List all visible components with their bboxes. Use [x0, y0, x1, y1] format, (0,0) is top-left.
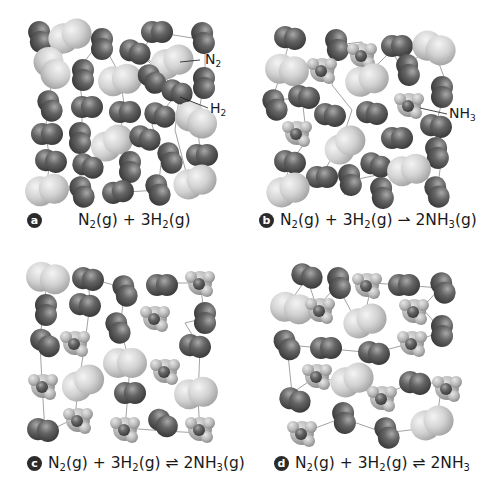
nh3-molecule	[307, 58, 337, 84]
h2-molecule	[144, 404, 183, 441]
h2-molecule	[142, 171, 174, 209]
h2-molecule	[381, 35, 413, 57]
n2-molecule	[406, 401, 458, 444]
h2-molecule	[71, 96, 103, 118]
badge-c: c	[27, 456, 42, 471]
n2-molecule	[24, 259, 73, 296]
badge-d: d	[274, 456, 289, 471]
h2-molecule	[109, 101, 141, 123]
h2-molecule	[427, 269, 459, 307]
n2-molecule	[56, 359, 109, 407]
nh3-molecule	[432, 376, 462, 402]
badge-a: a	[27, 213, 42, 228]
h2-molecule	[194, 302, 216, 334]
h2-molecule	[34, 87, 66, 125]
h2-molecule	[306, 166, 338, 188]
h2-molecule	[381, 127, 413, 149]
h2-label: H2	[210, 100, 226, 118]
h2-molecule	[26, 324, 65, 361]
h2-molecule	[431, 315, 453, 347]
n2-molecule	[96, 61, 145, 98]
n2-molecule	[103, 348, 147, 378]
nh3-molecule	[28, 374, 58, 400]
n2-molecule	[263, 51, 312, 88]
h2-molecule	[25, 416, 60, 443]
h2-molecule	[388, 274, 420, 296]
badge-b: b	[259, 213, 274, 228]
h2-molecule	[186, 144, 218, 166]
nh3-molecule	[282, 121, 312, 147]
h2-molecule	[397, 369, 432, 396]
h2-molecule	[69, 122, 91, 154]
equation-b: N2(g) + 3H2(g) ⇀ 2NH3(g)	[280, 211, 477, 230]
caption-c: c N2(g) + 3H2(g) ⇌ 2NH3(g)	[27, 454, 245, 473]
molecule-scene-a	[0, 0, 242, 243]
n2-molecule	[342, 60, 392, 100]
molecule-scene-b	[242, 0, 484, 243]
h2-molecule	[325, 265, 352, 300]
nh3-molecule	[150, 359, 180, 385]
nh3-molecule	[60, 331, 90, 357]
n2-molecule	[339, 299, 391, 342]
h2-molecule	[114, 382, 146, 404]
h2-molecule	[70, 265, 105, 292]
h2-molecule	[67, 291, 102, 318]
h2-molecule	[33, 147, 68, 174]
nh3-label: NH3	[449, 105, 476, 123]
h2-molecule	[177, 332, 212, 359]
h2-molecule	[259, 86, 291, 124]
nh3-molecule	[63, 408, 93, 434]
equilibrium-arrow-icon: ⇌	[166, 454, 179, 472]
h2-molecule	[72, 59, 94, 91]
nh3-molecule	[185, 271, 215, 297]
n2-molecule	[172, 374, 221, 411]
nh3-molecule	[397, 331, 427, 357]
nh3-molecule	[394, 93, 424, 119]
h2-molecule	[31, 123, 63, 145]
h2-molecule	[371, 414, 403, 452]
h2-molecule	[330, 400, 357, 435]
h2-molecule	[141, 21, 173, 43]
nh3-molecule	[367, 386, 397, 412]
h2-molecule	[276, 384, 314, 416]
n2-molecule	[23, 171, 72, 208]
caption-a: a N2(g) + 3H2(g)	[27, 211, 191, 230]
h2-molecule	[312, 101, 347, 128]
h2-molecule	[269, 326, 304, 365]
nh3-molecule	[305, 298, 335, 324]
nh3-molecule	[352, 273, 382, 299]
caption-b: b N2(g) + 3H2(g) ⇀ 2NH3(g)	[259, 211, 477, 230]
nh3-molecule	[140, 306, 170, 332]
equation-c: N2(g) + 3H2(g) ⇌ 2NH3(g)	[48, 454, 245, 473]
h2-molecule	[323, 27, 350, 62]
nh3-pointer-line	[420, 108, 447, 114]
h2-molecule	[288, 260, 326, 292]
h2-molecule	[102, 309, 134, 347]
nh3-molecule	[185, 417, 215, 443]
panel-d: d N2(g) + 3H2(g) ⇌ 2NH3	[242, 243, 484, 486]
h2-molecule	[35, 294, 57, 326]
h2-molecule	[119, 151, 141, 183]
equilibrium-arrow-icon: ⇌	[413, 454, 426, 472]
equation-d: N2(g) + 3H2(g) ⇌ 2NH3	[295, 454, 470, 473]
nh3-molecule	[110, 417, 140, 443]
h2-molecule	[336, 162, 363, 197]
h2-molecule	[286, 83, 321, 110]
panel-a: N2 H2 a N2(g) + 3H2(g)	[0, 0, 242, 243]
panel-b: NH3 b N2(g) + 3H2(g) ⇀ 2NH3(g)	[242, 0, 484, 243]
caption-d: d N2(g) + 3H2(g) ⇌ 2NH3	[274, 454, 470, 473]
h2-molecule	[193, 67, 215, 99]
molecule-scene-d	[242, 243, 484, 486]
equation-a: N2(g) + 3H2(g)	[78, 211, 191, 230]
forward-arrow-icon: ⇀	[398, 211, 411, 229]
n2-label: N2	[205, 51, 221, 69]
nh3-molecule	[399, 299, 429, 325]
h2-molecule	[146, 274, 178, 296]
molecule-scene-c	[0, 243, 242, 486]
panel-c: c N2(g) + 3H2(g) ⇌ 2NH3(g)	[0, 243, 242, 486]
h2-molecule	[66, 173, 98, 211]
h2-molecule	[431, 76, 453, 108]
h2-molecule	[91, 28, 113, 60]
h2-molecule	[141, 99, 179, 131]
h2-molecule	[272, 148, 307, 175]
